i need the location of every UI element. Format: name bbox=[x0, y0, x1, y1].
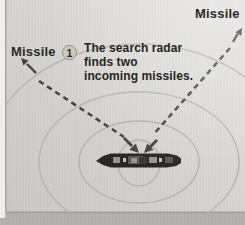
ship-silhouette bbox=[96, 154, 181, 168]
caption: The search radar finds two incoming miss… bbox=[84, 42, 196, 83]
step-badge: 1 bbox=[62, 45, 77, 60]
figure-canvas bbox=[0, 0, 245, 225]
caption-line: incoming missiles. bbox=[84, 70, 196, 84]
caption-line: The search radar bbox=[84, 42, 196, 56]
missile-label-right: Missile bbox=[195, 6, 240, 21]
bottom-band bbox=[0, 213, 245, 225]
page-margin-strip bbox=[0, 0, 5, 218]
step-number: 1 bbox=[67, 47, 73, 59]
caption-line: finds two bbox=[84, 56, 196, 70]
missile-label-left: Missile bbox=[11, 44, 56, 59]
photo-left-edge bbox=[5, 0, 6, 213]
radar-search-figure: Missile Missile 1 The search radar finds… bbox=[0, 0, 245, 225]
